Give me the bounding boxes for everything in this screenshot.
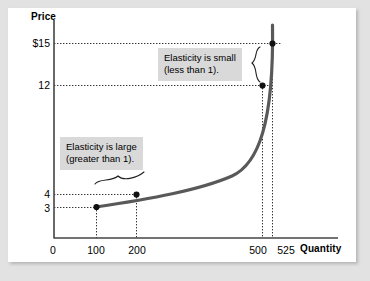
- annotation-elasticity-large: Elasticity is large (greater than 1).: [60, 137, 143, 170]
- data-point-100-3: [93, 204, 99, 210]
- annotation-elasticity-large-line1: Elasticity is large: [66, 141, 137, 153]
- data-point-525-15: [269, 40, 275, 46]
- x-axis-title: Quantity: [300, 244, 341, 254]
- data-point-200-4: [133, 191, 139, 197]
- x-tick-label-525: 525: [277, 245, 295, 256]
- data-point-500-12: [259, 82, 265, 88]
- figure-root: Price Quantity $15 12 4 3 0 100 200 500 …: [0, 0, 370, 281]
- y-tick-label-4: 4: [44, 189, 50, 200]
- x-tick-label-100: 100: [87, 245, 105, 256]
- brace-elasticity-large: [95, 172, 144, 184]
- x-tick-label-500: 500: [249, 245, 267, 256]
- annotation-elasticity-small: Elasticity is small (less than 1).: [158, 48, 242, 81]
- annotation-elasticity-large-line2: (greater than 1).: [66, 153, 137, 165]
- brace-elasticity-small: [252, 47, 260, 82]
- chart-canvas: [0, 0, 370, 281]
- x-tick-label-200: 200: [128, 245, 146, 256]
- y-axis-title: Price: [31, 12, 56, 22]
- y-tick-label-15: $15: [32, 38, 50, 49]
- annotation-elasticity-small-line2: (less than 1).: [164, 64, 236, 76]
- annotation-elasticity-small-line1: Elasticity is small: [164, 52, 236, 64]
- y-tick-label-12: 12: [38, 80, 50, 91]
- x-tick-label-0: 0: [50, 245, 56, 256]
- y-tick-label-3: 3: [44, 203, 50, 214]
